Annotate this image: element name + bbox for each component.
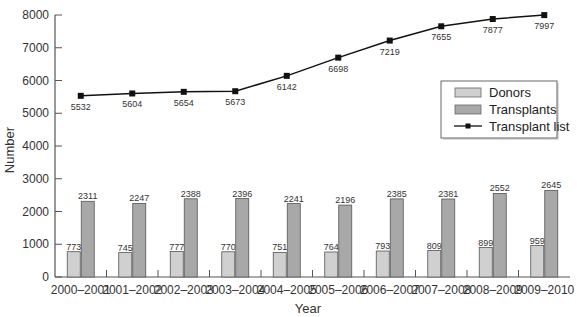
- line-marker: [335, 55, 341, 61]
- legend-label-transplant-list: Transplant list: [489, 119, 570, 134]
- transplants-bar: [493, 193, 506, 277]
- line-value-label: 6698: [328, 64, 348, 74]
- legend: Donors Transplants Transplant list: [441, 81, 570, 140]
- y-tick-label: 7000: [22, 41, 49, 55]
- transplants-bar: [390, 199, 403, 277]
- bar-value-label: 764: [324, 242, 339, 252]
- line-value-label: 5654: [174, 98, 194, 108]
- line-marker: [129, 90, 135, 96]
- line-marker: [284, 73, 290, 79]
- bar-value-label: 809: [427, 241, 442, 251]
- transplants-bar: [184, 199, 197, 277]
- donors-bar: [376, 251, 389, 277]
- bar-value-label: 745: [118, 243, 133, 253]
- chart: 010002000300040005000600070008000 2000–2…: [0, 0, 577, 317]
- transplants-bar: [81, 201, 94, 277]
- transplants-bar: [133, 203, 146, 277]
- y-tick-label: 4000: [22, 139, 49, 153]
- donors-bar: [479, 248, 492, 277]
- y-tick-label: 2000: [22, 205, 49, 219]
- line-marker: [181, 89, 187, 95]
- line-value-label: 7877: [483, 25, 503, 35]
- donors-bar: [428, 251, 441, 277]
- bar-value-label: 2241: [284, 194, 304, 204]
- line-value-label: 6142: [277, 82, 297, 92]
- line-value-label: 5604: [122, 99, 142, 109]
- transplants-bar: [339, 205, 352, 277]
- donors-bar: [531, 246, 544, 277]
- bar-value-label: 773: [66, 242, 81, 252]
- bar-value-label: 793: [375, 241, 390, 251]
- legend-label-donors: Donors: [489, 85, 531, 100]
- y-tick-label: 0: [42, 270, 49, 284]
- line-marker: [232, 88, 238, 94]
- bar-value-label: 959: [530, 236, 545, 246]
- bar-value-label: 2196: [335, 195, 355, 205]
- donors-bar: [119, 253, 132, 277]
- x-axis-title: Year: [295, 301, 322, 316]
- line-value-label: 7997: [534, 21, 554, 31]
- y-axis-title: Number: [2, 126, 17, 173]
- line-value-label: 5532: [71, 102, 91, 112]
- line-value-label: 7655: [431, 32, 451, 42]
- legend-marker-icon: [466, 124, 471, 129]
- y-tick-label: 8000: [22, 8, 49, 22]
- y-axis: 010002000300040005000600070008000: [22, 8, 62, 284]
- transplants-bar: [287, 204, 300, 277]
- line-marker: [490, 16, 496, 22]
- line-value-label: 7219: [380, 47, 400, 57]
- bar-value-label: 2552: [490, 183, 510, 193]
- y-tick-label: 6000: [22, 74, 49, 88]
- transplants-bar: [236, 199, 249, 277]
- bar-value-label: 770: [221, 242, 236, 252]
- line-value-label: 5673: [225, 97, 245, 107]
- line-marker: [78, 93, 84, 99]
- donors-bar: [273, 252, 286, 277]
- bar-series: 7732311745224777723887702396751224176421…: [66, 180, 561, 277]
- donors-bar: [67, 252, 80, 277]
- transplants-bar: [442, 199, 455, 277]
- bar-value-label: 2388: [181, 189, 201, 199]
- line-marker: [541, 12, 547, 18]
- bar-value-label: 751: [272, 242, 287, 252]
- line-marker: [387, 38, 393, 44]
- bar-value-label: 2385: [387, 189, 407, 199]
- y-tick-label: 1000: [22, 237, 49, 251]
- y-tick-label: 3000: [22, 172, 49, 186]
- bar-value-label: 2396: [232, 189, 252, 199]
- bar-value-label: 899: [478, 238, 493, 248]
- legend-swatch-donors: [455, 88, 481, 97]
- bar-value-label: 777: [169, 242, 184, 252]
- bar-value-label: 2381: [438, 189, 458, 199]
- legend-label-transplants: Transplants: [489, 102, 557, 117]
- y-tick-label: 5000: [22, 106, 49, 120]
- bar-value-label: 2311: [78, 191, 97, 201]
- donors-bar: [222, 252, 235, 277]
- legend-swatch-transplants: [455, 105, 481, 114]
- donors-bar: [325, 252, 338, 277]
- line-marker: [438, 23, 444, 29]
- donors-bar: [170, 252, 183, 277]
- bar-value-label: 2645: [541, 180, 561, 190]
- transplants-bar: [545, 190, 558, 277]
- x-tick-label: 2009–2010: [514, 283, 574, 297]
- bar-value-label: 2247: [129, 193, 149, 203]
